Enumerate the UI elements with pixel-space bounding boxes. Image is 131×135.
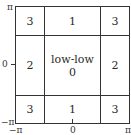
cell-top-left: 3 — [16, 7, 44, 35]
center-value: 0 — [69, 66, 76, 79]
cell-top-right: 3 — [101, 7, 129, 35]
x-axis-label-right: π — [125, 126, 131, 135]
cell-bottom-left: 3 — [16, 96, 44, 123]
cell-center: low-low 0 — [45, 36, 100, 95]
center-title: low-low — [51, 53, 94, 66]
y-axis-label-top: π — [7, 3, 13, 12]
y-axis-label-middle: 0 — [2, 60, 8, 69]
x-axis-tick-middle — [72, 119, 73, 123]
cell-top-middle: 1 — [45, 7, 100, 35]
y-axis-tick-middle — [11, 64, 15, 65]
x-axis-label-middle: 0 — [70, 126, 76, 135]
cell-bottom-right: 3 — [101, 96, 129, 123]
cell-middle-right: 2 — [101, 36, 129, 95]
x-axis-label-left: −π — [9, 126, 22, 135]
cell-middle-left: 2 — [16, 36, 44, 95]
